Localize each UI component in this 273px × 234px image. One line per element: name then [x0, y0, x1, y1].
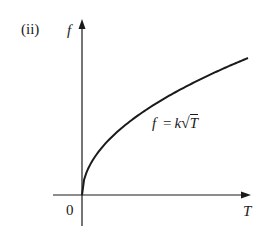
equation-radicand: T — [190, 114, 198, 131]
equation-annotation: f =k√T — [152, 115, 198, 131]
panel-label: (ii) — [21, 22, 39, 37]
x-axis-arrow-icon — [241, 192, 251, 199]
equation-equals: = — [163, 115, 171, 131]
equation-lhs: f — [152, 115, 156, 131]
y-axis-label: f — [67, 23, 71, 38]
x-axis-label: T — [243, 204, 251, 219]
plot-area — [0, 0, 273, 234]
y-axis-arrow-icon — [79, 19, 86, 29]
sqrt-sign-icon: √ — [181, 114, 190, 131]
origin-label: 0 — [66, 203, 74, 218]
